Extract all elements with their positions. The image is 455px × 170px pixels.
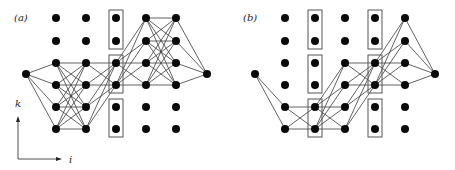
lattice-node (401, 59, 409, 67)
panel-b-edges (255, 18, 435, 129)
lattice-node (82, 37, 90, 45)
lattice-node (281, 81, 289, 89)
lattice-node (52, 14, 60, 22)
edge (315, 63, 345, 107)
axes: k i (15, 98, 72, 165)
lattice-node (52, 81, 60, 89)
lattice-node (281, 14, 289, 22)
lattice-node (172, 103, 180, 111)
i-axis-arrow-icon (56, 157, 62, 161)
lattice-node (401, 14, 409, 22)
lattice-node (281, 103, 289, 111)
lattice-node (112, 14, 120, 22)
edge (116, 18, 146, 63)
lattice-node (371, 81, 379, 89)
lattice-node (112, 81, 120, 89)
lattice-node (172, 125, 180, 133)
lattice-node (341, 103, 349, 111)
panel-a-nodes (22, 14, 211, 133)
lattice-node (112, 37, 120, 45)
source-node (22, 70, 30, 78)
lattice-node (52, 59, 60, 67)
panel-a-edges (26, 18, 207, 129)
lattice-node (172, 37, 180, 45)
lattice-node (311, 125, 319, 133)
panel-b: (b) (243, 10, 439, 137)
edge (86, 63, 116, 129)
lattice-node (341, 37, 349, 45)
lattice-node (82, 81, 90, 89)
lattice-node (82, 14, 90, 22)
lattice-node (142, 37, 150, 45)
lattice-node (172, 14, 180, 22)
lattice-node (401, 81, 409, 89)
lattice-node (112, 103, 120, 111)
lattice-node (311, 103, 319, 111)
source-node (251, 70, 259, 78)
lattice-node (112, 125, 120, 133)
edge (176, 74, 207, 85)
panel-b-nodes (251, 14, 439, 133)
lattice-diagram: (a) (b) k i (0, 0, 455, 170)
edge (86, 85, 116, 129)
edge (405, 74, 435, 85)
i-axis-label: i (69, 154, 72, 165)
lattice-node (371, 59, 379, 67)
lattice-node (112, 59, 120, 67)
edge (26, 63, 56, 74)
lattice-node (401, 37, 409, 45)
lattice-node (52, 103, 60, 111)
edge (345, 85, 375, 129)
lattice-node (281, 37, 289, 45)
lattice-node (371, 125, 379, 133)
lattice-node (52, 125, 60, 133)
k-axis-arrow-icon (16, 116, 20, 122)
lattice-node (142, 14, 150, 22)
lattice-node (401, 125, 409, 133)
panel-b-label: (b) (243, 12, 257, 23)
lattice-node (172, 59, 180, 67)
lattice-node (82, 103, 90, 111)
k-axis-label: k (15, 98, 21, 109)
lattice-node (371, 14, 379, 22)
panel-a-label: (a) (14, 12, 28, 23)
edge (345, 63, 375, 129)
lattice-node (311, 81, 319, 89)
panel-b-boxes (308, 10, 382, 137)
lattice-node (82, 125, 90, 133)
lattice-node (142, 81, 150, 89)
sink-node (203, 70, 211, 78)
lattice-node (341, 14, 349, 22)
lattice-node (311, 37, 319, 45)
lattice-node (52, 37, 60, 45)
edge (116, 18, 146, 85)
lattice-node (371, 103, 379, 111)
panel-a: (a) (14, 10, 211, 137)
lattice-node (172, 81, 180, 89)
edge (315, 63, 345, 129)
lattice-node (341, 125, 349, 133)
edge (375, 18, 405, 63)
lattice-node (341, 59, 349, 67)
lattice-node (281, 125, 289, 133)
lattice-node (281, 59, 289, 67)
edge (375, 18, 405, 85)
lattice-node (311, 59, 319, 67)
lattice-node (82, 59, 90, 67)
lattice-node (341, 81, 349, 89)
lattice-node (142, 125, 150, 133)
lattice-node (311, 14, 319, 22)
lattice-node (142, 59, 150, 67)
sink-node (431, 70, 439, 78)
lattice-node (142, 103, 150, 111)
lattice-node (371, 37, 379, 45)
lattice-node (401, 103, 409, 111)
